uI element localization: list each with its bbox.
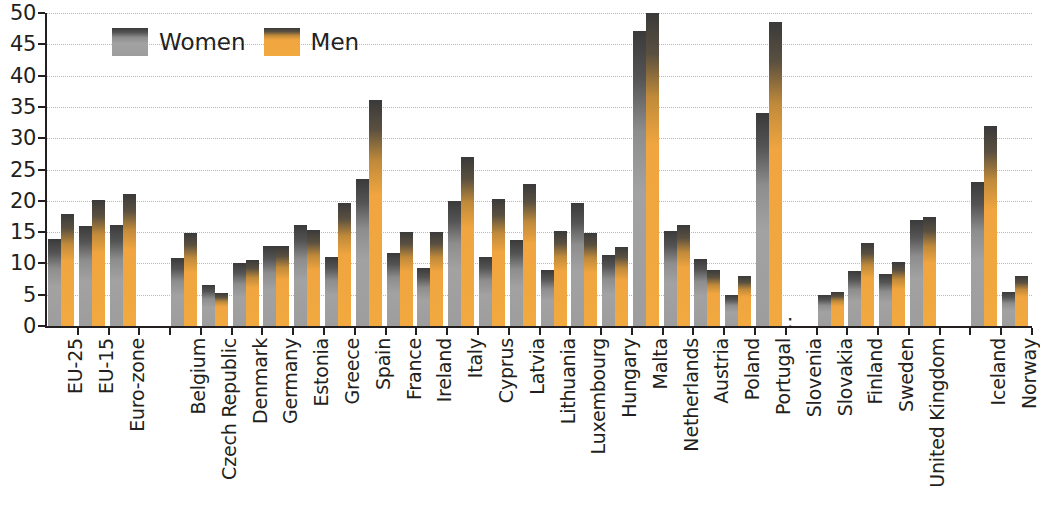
bar-group	[47, 13, 78, 326]
x-axis-label: EU-15	[97, 338, 116, 394]
bar-group	[847, 13, 878, 326]
bar-women	[294, 225, 307, 326]
x-axis-label: Poland	[743, 338, 762, 400]
bar-women	[879, 274, 892, 326]
bar-women	[448, 201, 461, 326]
y-axis-tick-mark	[38, 106, 45, 108]
y-axis: 50454035302520151050	[0, 0, 36, 340]
bar-group	[601, 13, 632, 326]
bar-women	[571, 203, 584, 326]
x-axis-tick-mark	[323, 328, 325, 335]
bar-group	[1001, 13, 1032, 326]
bar-women	[48, 239, 61, 326]
x-axis-tick-mark	[1031, 328, 1033, 335]
bar-women	[479, 257, 492, 326]
x-axis-label: Finland	[866, 338, 885, 405]
bar-men	[984, 126, 997, 326]
x-axis-label: United Kingdom	[928, 338, 947, 488]
legend-swatch-icon	[264, 28, 300, 56]
bar-group	[970, 13, 1001, 326]
y-axis-tick-mark	[38, 325, 45, 327]
x-axis-tick-mark	[631, 328, 633, 335]
y-axis-tick-mark	[38, 43, 45, 45]
y-axis-tick-label: 35	[10, 96, 36, 117]
bar-group	[909, 13, 940, 326]
bar-group	[139, 13, 170, 326]
bar-women	[633, 31, 646, 326]
bar-group	[755, 13, 786, 326]
x-axis-tick-mark	[877, 328, 879, 335]
bar-group	[170, 13, 201, 326]
y-axis-tick-label: 10	[10, 253, 36, 274]
bar-group	[78, 13, 109, 326]
x-axis-label: Lithuania	[559, 338, 578, 424]
bar-group	[693, 13, 724, 326]
bar-group	[570, 13, 601, 326]
y-axis-tick-label: 15	[10, 222, 36, 243]
x-axis-label: Ireland	[435, 338, 454, 402]
plot-area: :	[47, 13, 1032, 326]
bar-women	[756, 113, 769, 326]
bar-group	[724, 13, 755, 326]
bar-men	[61, 214, 74, 326]
y-axis-tick-label: 40	[10, 65, 36, 86]
x-axis-tick-mark	[785, 328, 787, 335]
y-axis-tick-mark	[38, 169, 45, 171]
bar-group	[447, 13, 478, 326]
x-axis-label: Latvia	[528, 338, 547, 395]
x-axis-tick-mark	[723, 328, 725, 335]
chart-legend: WomenMen	[112, 28, 359, 56]
bar-group	[355, 13, 386, 326]
x-axis-tick-mark	[754, 328, 756, 335]
y-axis-tick-mark	[38, 200, 45, 202]
bar-men	[923, 217, 936, 326]
x-axis-tick-mark	[200, 328, 202, 335]
x-axis-tick-mark	[77, 328, 79, 335]
x-axis-label: Austria	[712, 338, 731, 404]
bar-women	[387, 253, 400, 326]
bar-women	[79, 226, 92, 326]
x-axis-tick-mark	[415, 328, 417, 335]
y-axis-tick-mark	[38, 262, 45, 264]
y-axis-tick-mark	[38, 75, 45, 77]
x-axis-label: Germany	[281, 338, 300, 424]
bar-women	[910, 220, 923, 326]
bar-group	[663, 13, 694, 326]
x-axis-label: Portugal	[774, 338, 793, 415]
bar-women	[356, 179, 369, 326]
x-axis-label: Malta	[651, 338, 670, 389]
bar-women	[233, 263, 246, 326]
x-axis-label: Denmark	[251, 338, 270, 424]
bar-men	[861, 243, 874, 326]
bar-group	[940, 13, 971, 326]
x-axis-tick-mark	[292, 328, 294, 335]
x-axis-tick-mark	[662, 328, 664, 335]
bar-women	[971, 182, 984, 326]
bar-women	[171, 258, 184, 326]
bar-men	[461, 157, 474, 326]
bar-women	[510, 240, 523, 326]
x-axis-label: Belgium	[189, 338, 208, 415]
bar-men	[369, 100, 382, 326]
x-axis-label: Hungary	[620, 338, 639, 418]
bar-men	[831, 292, 844, 326]
x-axis-tick-mark	[939, 328, 941, 335]
x-axis-label: Slovenia	[805, 338, 824, 417]
y-axis-tick-label: 30	[10, 128, 36, 149]
x-axis-label: Sweden	[897, 338, 916, 412]
x-axis-tick-mark	[600, 328, 602, 335]
legend-item: Women	[112, 28, 246, 56]
x-axis-tick-mark	[846, 328, 848, 335]
x-axis-tick-mark	[138, 328, 140, 335]
x-axis-label: Spain	[374, 338, 393, 390]
x-axis-tick-mark	[169, 328, 171, 335]
x-axis-label: Euro-zone	[128, 338, 147, 432]
bar-men	[646, 13, 659, 326]
missing-data-marker: :	[787, 318, 797, 324]
bar-men	[246, 260, 259, 326]
x-axis-tick-mark	[816, 328, 818, 335]
x-axis-labels: EU-25EU-15Euro-zoneBelgiumCzech Republic…	[47, 338, 1032, 506]
x-axis-label: Netherlands	[682, 338, 701, 452]
bar-group	[632, 13, 663, 326]
